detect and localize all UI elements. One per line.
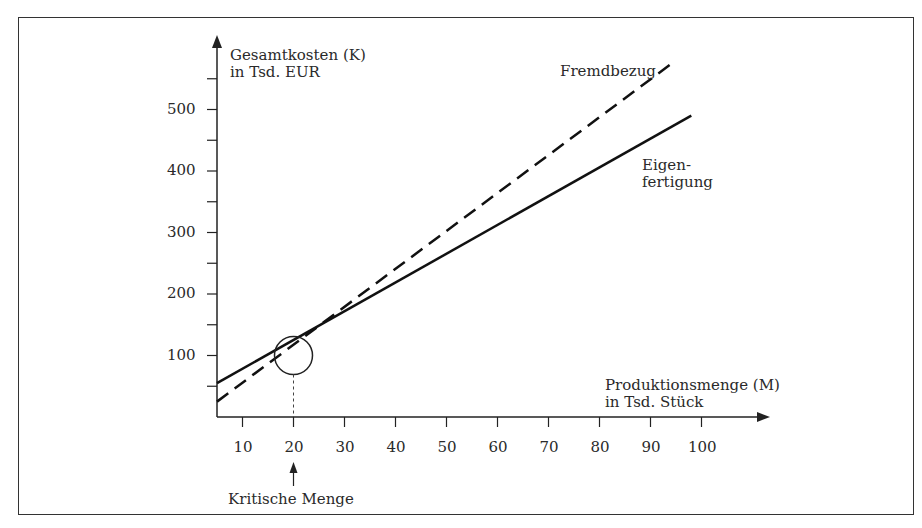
x-tick-label: 80 xyxy=(591,438,610,456)
y-axis-label-line2: in Tsd. EUR xyxy=(230,64,320,81)
x-tick-label: 70 xyxy=(540,438,559,456)
legend-fremdbezug: Fremdbezug xyxy=(560,63,656,80)
y-axis-arrow-icon xyxy=(212,35,222,48)
x-tick-label: 100 xyxy=(688,438,717,456)
y-tick-label: 200 xyxy=(167,284,196,302)
x-tick-label: 90 xyxy=(642,438,661,456)
legend-eigenfertigung-line1: Eigen- xyxy=(642,157,691,174)
axis-ticks xyxy=(207,79,702,427)
y-axis-label-line1: Gesamtkosten (K) xyxy=(230,47,366,64)
x-tick-label: 40 xyxy=(387,438,406,456)
critical-arrow-icon xyxy=(290,462,298,473)
y-tick-label: 300 xyxy=(167,223,196,241)
x-tick-label: 50 xyxy=(438,438,457,456)
kritische-menge-label: Kritische Menge xyxy=(228,491,354,508)
chart-canvas xyxy=(0,0,922,528)
x-tick-label: 30 xyxy=(336,438,355,456)
y-tick-label: 100 xyxy=(167,346,196,364)
series-eigenfertigung xyxy=(217,116,691,384)
y-tick-label: 500 xyxy=(167,100,196,118)
x-tick-label: 20 xyxy=(285,438,304,456)
legend-eigenfertigung-line2: fertigung xyxy=(642,174,713,191)
x-tick-label: 10 xyxy=(234,438,253,456)
x-tick-label: 60 xyxy=(489,438,508,456)
x-axis-label-line2: in Tsd. Stück xyxy=(605,394,703,411)
y-tick-label: 400 xyxy=(167,161,196,179)
x-axis-arrow-icon xyxy=(757,412,770,422)
series-fremdbezug xyxy=(217,60,676,401)
x-axis-label-line1: Produktionsmenge (M) xyxy=(605,377,780,394)
